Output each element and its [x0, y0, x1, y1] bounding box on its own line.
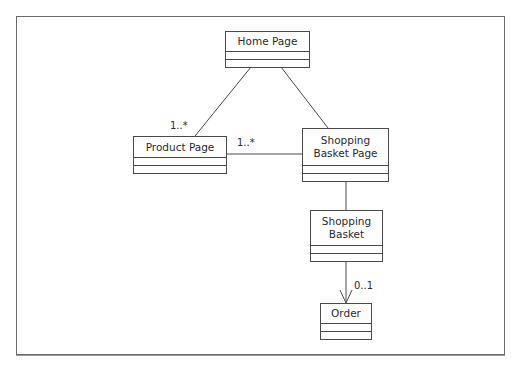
attributes-compartment: [226, 51, 309, 59]
class-name-line2: Basket Page: [313, 147, 377, 160]
multiplicity-basketpage-product: 1..*: [237, 137, 255, 148]
class-name-line2: Basket: [322, 228, 371, 241]
class-name-line1: Shopping: [313, 134, 377, 147]
operations-compartment: [321, 331, 371, 339]
operations-compartment: [303, 173, 388, 181]
multiplicity-basket-order: 0..1: [354, 280, 373, 291]
attributes-compartment: [303, 165, 388, 173]
assoc-home-basketpage: [281, 67, 328, 128]
class-shopping-basket-page[interactable]: Shopping Basket Page: [302, 128, 389, 182]
attributes-compartment: [321, 323, 371, 331]
class-name: Order: [321, 304, 371, 323]
class-name: Product Page: [134, 137, 226, 157]
assoc-home-product: [195, 67, 251, 136]
class-name: Shopping Basket: [311, 211, 382, 245]
class-shopping-basket[interactable]: Shopping Basket: [310, 210, 383, 262]
attributes-compartment: [134, 157, 226, 165]
class-order[interactable]: Order: [320, 303, 372, 340]
operations-compartment: [226, 59, 309, 67]
class-home-page[interactable]: Home Page: [225, 31, 310, 68]
operations-compartment: [134, 165, 226, 173]
class-name: Home Page: [226, 32, 309, 51]
class-product-page[interactable]: Product Page: [133, 136, 227, 174]
class-name-line1: Shopping: [322, 215, 371, 228]
class-name: Shopping Basket Page: [303, 129, 388, 165]
attributes-compartment: [311, 245, 382, 253]
multiplicity-home-product: 1..*: [170, 120, 188, 131]
operations-compartment: [311, 253, 382, 261]
